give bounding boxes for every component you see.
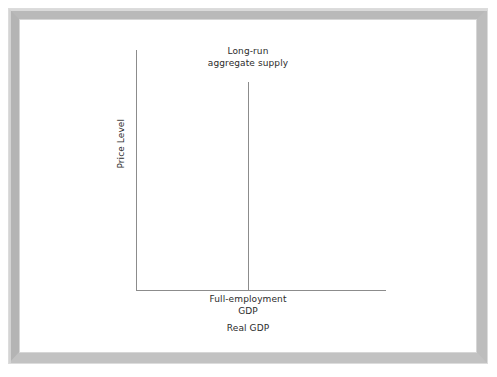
lras-curve-label: Long-run aggregate supply (168, 46, 328, 69)
figure-page: Long-run aggregate supply Full-employmen… (0, 0, 497, 377)
full-employment-gdp-label: Full-employment GDP (188, 294, 308, 317)
lras-curve (248, 82, 249, 291)
x-axis-title: Real GDP (198, 323, 298, 335)
chart-canvas: Long-run aggregate supply Full-employmen… (20, 20, 476, 352)
x-axis-line (136, 290, 386, 291)
y-axis-line (136, 50, 137, 290)
y-axis-title: Price Level (116, 111, 128, 177)
